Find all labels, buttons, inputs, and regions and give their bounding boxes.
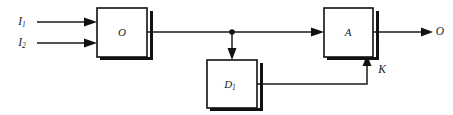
signal-label-i2: I2 — [17, 36, 26, 50]
block-diagram-canvas: O D1 A I1 I2 K — [0, 0, 453, 115]
arrowhead-i2 — [84, 39, 97, 48]
wire-i2-to-o — [37, 39, 97, 48]
wire-k-path — [257, 64, 367, 84]
signal-label-output-o: O — [436, 25, 445, 37]
block-o[interactable]: O — [97, 8, 153, 60]
block-a-label: A — [344, 26, 352, 38]
wire-tap-to-d1 — [228, 32, 237, 60]
arrowhead-d1-input — [228, 48, 237, 60]
block-o-label: O — [118, 26, 126, 38]
block-a[interactable]: A — [324, 8, 379, 60]
block-d1[interactable]: D1 — [207, 60, 263, 111]
arrowhead-i1 — [84, 18, 97, 27]
block-diagram-svg: O D1 A I1 I2 K — [0, 0, 453, 115]
wire-i1-to-o — [37, 18, 97, 27]
wire-o-to-a — [147, 28, 324, 37]
arrowhead-a-input — [311, 28, 324, 37]
signal-label-k: K — [377, 63, 387, 75]
wire-a-to-output — [373, 28, 433, 37]
signal-label-i1: I1 — [17, 15, 26, 29]
arrowhead-output — [421, 28, 433, 37]
